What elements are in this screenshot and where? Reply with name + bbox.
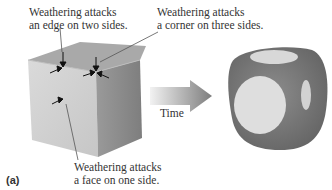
fresh-cube [28, 42, 146, 157]
edge-annotation-line1: Weathering attacks [29, 6, 128, 19]
corner-annotation-line2: a corner on three sides. [157, 19, 263, 32]
panel-label: (a) [6, 174, 19, 186]
face-annotation-line1: Weathering attacks [74, 161, 162, 174]
corner-annotation: Weathering attacks a corner on three sid… [157, 6, 263, 32]
time-label: Time [160, 107, 184, 119]
face-annotation-line2: a face on one side. [74, 174, 162, 187]
weathered-block [228, 47, 327, 150]
edge-annotation: Weathering attacks an edge on two sides. [29, 6, 128, 32]
corner-annotation-line1: Weathering attacks [157, 6, 263, 19]
edge-annotation-line2: an edge on two sides. [29, 19, 128, 32]
face-annotation: Weathering attacks a face on one side. [74, 161, 162, 187]
